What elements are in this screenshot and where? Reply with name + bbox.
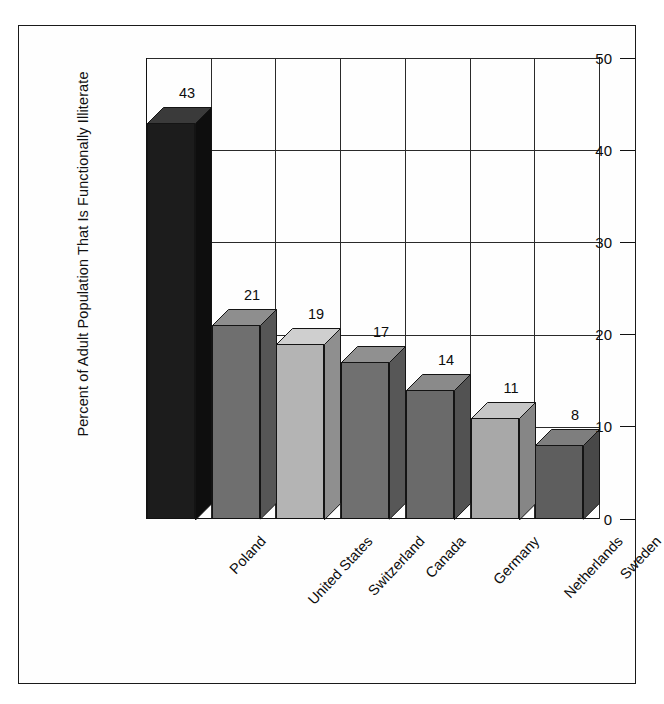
plot-area: 4321191714118 [146,58,599,519]
y-tick-mark [620,242,635,243]
y-tick-mark [620,426,635,427]
y-axis-title: Percent of Adult Population That Is Func… [75,14,91,494]
x-label-germany: Germany [490,533,542,588]
bar-value-label: 21 [222,288,282,303]
bar-side-face [454,390,472,537]
x-label-united-states: United States [305,533,376,608]
bar-front-face [535,445,583,519]
bar-united-states[interactable] [212,325,260,519]
bar-front-face [212,325,260,519]
x-label-poland: Poland [227,533,269,577]
bar-poland[interactable] [147,123,195,519]
gridline-y-50 [146,58,599,59]
figure-frame: Percent of Adult Population That Is Func… [18,25,636,684]
bar-value-label: 19 [286,307,346,322]
bar-front-face [147,123,195,519]
bar-front-face [341,362,389,519]
y-tick-label: 10 [595,419,612,434]
bar-value-label: 11 [481,381,541,396]
x-axis-baseline [146,518,599,519]
y-tick-label: 20 [595,327,612,342]
y-tick-label: 0 [604,511,612,526]
bar-front-face [276,344,324,519]
y-tick-mark [620,58,635,59]
bar-value-label: 17 [351,325,411,340]
bar-canada[interactable] [341,362,389,519]
gridline-y-30 [146,242,599,243]
bar-front-face [471,418,519,519]
bar-front-face [406,390,454,519]
y-tick-label: 30 [595,234,612,249]
bar-value-label: 43 [157,86,217,101]
bar-netherlands[interactable] [471,418,519,519]
bar-germany[interactable] [406,390,454,519]
bar-side-face [389,362,407,537]
y-tick-mark [620,519,635,520]
x-label-canada: Canada [422,533,468,581]
bar-value-label: 14 [416,353,476,368]
y-tick-mark [620,334,635,335]
x-label-sweden: Sweden [617,533,664,582]
bar-side-face [195,123,213,537]
bar-sweden[interactable] [535,445,583,519]
y-tick-label: 50 [595,50,612,65]
y-tick-mark [620,150,635,151]
gridline-y-40 [146,150,599,151]
bar-switzerland[interactable] [276,344,324,519]
bar-side-face [583,445,601,537]
bar-side-face [324,344,342,537]
y-tick-label: 40 [595,142,612,157]
x-label-netherlands: Netherlands [561,533,626,601]
